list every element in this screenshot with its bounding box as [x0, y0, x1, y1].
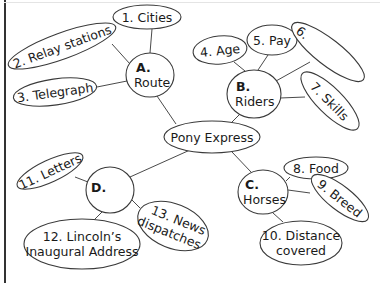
branch-a-letter: A.	[136, 60, 151, 75]
branch-c-label: Horses	[243, 192, 286, 207]
item-11-letters: 11. Letters	[13, 146, 88, 196]
item-6-blank: 6.	[285, 14, 372, 90]
branch-c-horses: C. Horses	[238, 170, 288, 214]
branch-b-label: Riders	[235, 94, 274, 109]
branch-c-letter: C.	[245, 177, 259, 192]
branch-a-label: Route	[134, 75, 171, 90]
branch-a-route: A. Route	[126, 53, 174, 97]
branch-b-riders: B. Riders	[227, 70, 281, 118]
svg-text:covered: covered	[276, 243, 326, 258]
item-1-cities: 1. Cities	[113, 5, 181, 29]
center-node-pony-express: Pony Express	[164, 121, 260, 153]
item-9-breed: 9. Breed	[305, 167, 375, 229]
item-5-pay: 5. Pay	[247, 25, 297, 55]
diagram-frame: Pony Express A. Route 1. Cities 2. Relay…	[0, 0, 380, 283]
concept-web: Pony Express A. Route 1. Cities 2. Relay…	[0, 0, 380, 283]
svg-text:Inaugural Address: Inaugural Address	[25, 244, 138, 259]
svg-text:2. Relay stations: 2. Relay stations	[11, 22, 114, 72]
item-10-distance-covered: 10. Distance covered	[260, 221, 342, 265]
item-12-lincolns-inaugural-address: 12. Lincoln’s Inaugural Address	[24, 219, 140, 269]
svg-text:1. Cities: 1. Cities	[122, 10, 173, 25]
item-4-age: 4. Age	[192, 33, 249, 66]
svg-text:5. Pay: 5. Pay	[253, 33, 292, 48]
center-label: Pony Express	[171, 130, 254, 145]
item-3-telegraph: 3. Telegraph	[12, 73, 99, 110]
svg-text:10. Distance: 10. Distance	[262, 228, 341, 243]
branch-d-blank: D.	[86, 167, 134, 213]
branch-d-letter: D.	[91, 180, 106, 195]
svg-text:11. Letters: 11. Letters	[16, 150, 83, 192]
svg-text:8. Food: 8. Food	[293, 161, 339, 176]
svg-text:12. Lincoln’s: 12. Lincoln’s	[43, 229, 122, 244]
item-13-news-dispatches: 13. News dispatches	[130, 192, 215, 261]
branch-b-letter: B.	[236, 79, 250, 94]
item-2-relay-stations: 2. Relay stations	[4, 14, 120, 77]
